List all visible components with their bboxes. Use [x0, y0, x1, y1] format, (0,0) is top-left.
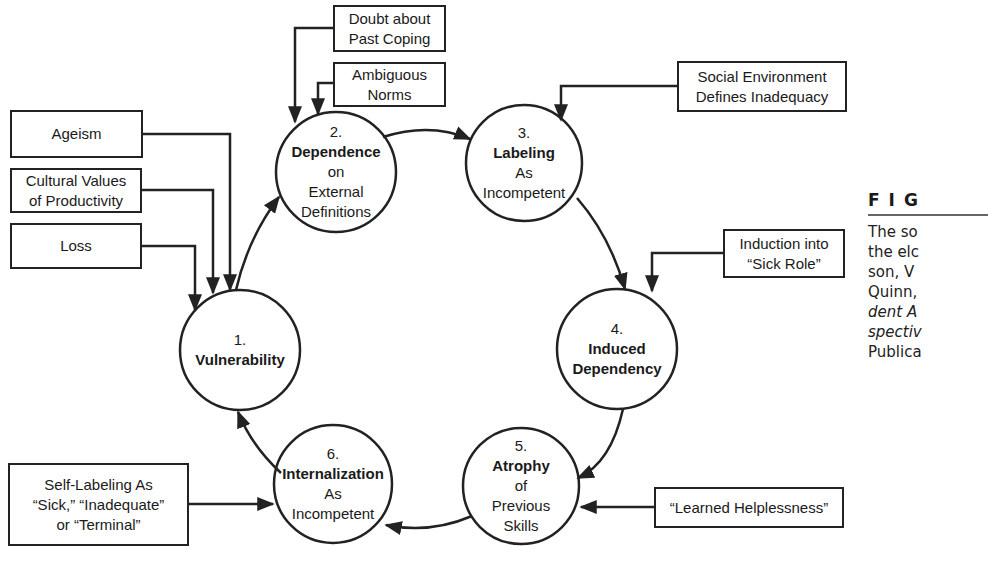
connector-induction — [652, 253, 723, 291]
arc-3-to-4 — [577, 198, 625, 289]
node-label: As — [324, 484, 342, 504]
connector-cultural — [142, 190, 213, 293]
node-label: Internalization — [282, 464, 384, 484]
connector-doubt — [295, 28, 333, 122]
node-label: Previous — [492, 496, 550, 516]
factor-induction-sick-role: Induction into “Sick Role” — [723, 229, 845, 278]
factor-ambiguous-norms: Ambiguous Norms — [333, 62, 446, 107]
node-label: of — [515, 476, 528, 496]
node-label: Dependency — [572, 359, 661, 379]
node-label: Incompetent — [483, 183, 566, 203]
caption-line: son, V — [868, 262, 988, 282]
node-label: Vulnerability — [195, 350, 284, 370]
caption-line: dent A — [868, 302, 988, 322]
caption-line: Publica — [868, 342, 988, 362]
caption-line: spectiv — [868, 322, 988, 342]
arc-1-to-2 — [236, 197, 279, 290]
node-label: Atrophy — [492, 456, 550, 476]
connector-ambiguous — [318, 83, 333, 114]
node-label: Skills — [503, 516, 538, 536]
arc-5-to-6 — [386, 516, 472, 528]
caption-line: Quinn, — [868, 282, 988, 302]
factor-learned-helplessness: “Learned Helplessness” — [654, 487, 844, 528]
node-label: Labeling — [493, 143, 555, 163]
arc-4-to-5 — [578, 409, 623, 478]
node-labeling: 3. Labeling As Incompetent — [466, 105, 582, 221]
node-vulnerability: 1. Vulnerability — [182, 292, 298, 408]
node-internalization: 6. Internalization As Incompetent — [274, 425, 392, 543]
factor-cultural-values: Cultural Values of Productivity — [10, 168, 142, 213]
factor-self-labeling: Self-Labeling As “Sick,” “Inadequate” or… — [8, 463, 189, 546]
node-number: 3. — [518, 123, 531, 143]
node-label: Dependence — [291, 142, 380, 162]
factor-loss: Loss — [10, 223, 142, 269]
figure-caption: FIG The so the elc son, V Quinn, dent A … — [868, 190, 988, 362]
caption-line: The so — [868, 222, 988, 242]
node-number: 5. — [515, 436, 528, 456]
node-label: External — [308, 182, 363, 202]
factor-social-environment: Social Environment Defines Inadequacy — [677, 61, 847, 112]
figure-heading: FIG — [868, 190, 988, 216]
node-label: Incompetent — [292, 504, 375, 524]
caption-line: the elc — [868, 242, 988, 262]
node-label: Induced — [588, 339, 646, 359]
factor-doubt-about-past-coping: Doubt about Past Coping — [333, 5, 446, 52]
factor-ageism: Ageism — [10, 110, 143, 158]
node-number: 6. — [327, 444, 340, 464]
connector-ageism — [143, 134, 230, 290]
node-label: on — [328, 162, 345, 182]
node-dependence: 2. Dependence on External Definitions — [274, 112, 398, 232]
node-label: Definitions — [301, 202, 371, 222]
node-number: 4. — [611, 319, 624, 339]
node-induced-dependency: 4. Induced Dependency — [557, 289, 677, 409]
node-atrophy: 5. Atrophy of Previous Skills — [463, 428, 579, 544]
node-label: As — [515, 163, 533, 183]
node-number: 2. — [330, 122, 343, 142]
node-number: 1. — [234, 330, 247, 350]
